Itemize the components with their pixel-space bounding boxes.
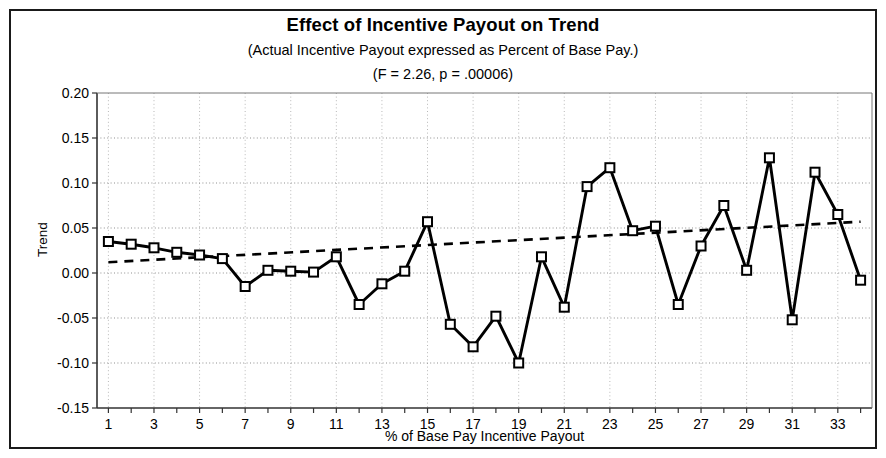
data-point-marker bbox=[149, 243, 158, 252]
plot-frame bbox=[97, 93, 872, 408]
data-point-marker bbox=[811, 168, 820, 177]
data-point-marker bbox=[583, 182, 592, 191]
data-point-marker bbox=[172, 248, 181, 257]
data-point-marker bbox=[332, 252, 341, 261]
data-point-marker bbox=[651, 222, 660, 231]
data-point-marker bbox=[104, 237, 113, 246]
data-point-marker bbox=[355, 300, 364, 309]
data-point-marker bbox=[719, 201, 728, 210]
data-point-marker bbox=[469, 342, 478, 351]
data-point-marker bbox=[377, 279, 386, 288]
data-point-marker bbox=[765, 153, 774, 162]
data-point-marker bbox=[423, 217, 432, 226]
data-point-marker bbox=[400, 267, 409, 276]
data-point-marker bbox=[127, 240, 136, 249]
data-point-marker bbox=[697, 242, 706, 251]
data-point-markers bbox=[104, 153, 865, 367]
data-point-marker bbox=[674, 300, 683, 309]
data-point-marker bbox=[241, 282, 250, 291]
data-point-marker bbox=[446, 320, 455, 329]
data-point-marker bbox=[537, 252, 546, 261]
plot-area bbox=[0, 0, 886, 458]
data-point-marker bbox=[263, 266, 272, 275]
data-point-marker bbox=[195, 251, 204, 260]
data-point-marker bbox=[856, 276, 865, 285]
data-point-marker bbox=[514, 359, 523, 368]
data-point-marker bbox=[742, 266, 751, 275]
data-point-marker bbox=[605, 163, 614, 172]
data-point-marker bbox=[309, 268, 318, 277]
chart-figure: Effect of Incentive Payout on Trend (Act… bbox=[0, 0, 886, 458]
data-point-marker bbox=[491, 312, 500, 321]
data-point-marker bbox=[788, 315, 797, 324]
data-point-marker bbox=[628, 226, 637, 235]
gridlines bbox=[97, 93, 872, 408]
data-point-marker bbox=[286, 267, 295, 276]
data-point-marker bbox=[560, 303, 569, 312]
tick-marks bbox=[92, 93, 861, 413]
data-point-marker bbox=[833, 210, 842, 219]
data-point-marker bbox=[218, 254, 227, 263]
